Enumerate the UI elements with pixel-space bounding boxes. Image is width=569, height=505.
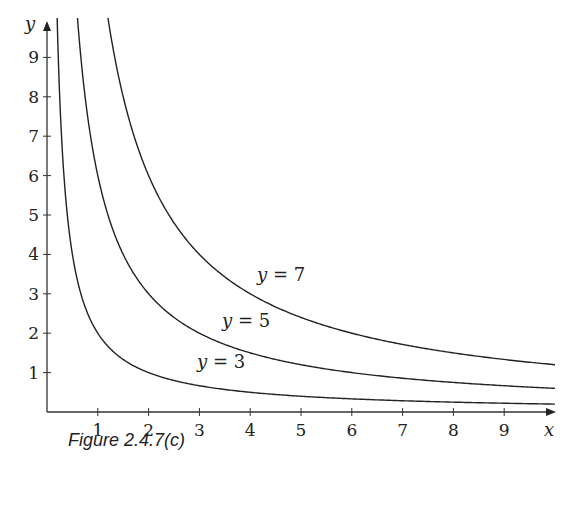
y-tick-label: 2 (28, 323, 39, 343)
x-tick-label: 6 (346, 420, 357, 440)
y-tick-label: 8 (28, 87, 39, 107)
y-tick-label: 5 (28, 205, 39, 225)
curve-label: y = 5 (221, 310, 270, 331)
axes: 123456789123456789xy (24, 13, 556, 440)
x-tick-label: 9 (499, 420, 510, 440)
curve-y7 (108, 18, 555, 365)
y-tick-label: 4 (28, 244, 39, 264)
x-tick-label: 7 (397, 420, 408, 440)
curve-y5 (77, 18, 555, 388)
x-tick-label: 5 (296, 420, 307, 440)
curves (57, 18, 555, 404)
y-axis-label: y (24, 13, 36, 34)
figure-caption: Figure 2.4.7(c) (68, 430, 185, 451)
labels: y = 3y = 5y = 7 (196, 264, 305, 372)
y-tick-label: 3 (28, 284, 39, 304)
curve-label: y = 3 (196, 351, 245, 372)
y-tick-label: 9 (28, 47, 39, 67)
y-tick-label: 6 (28, 166, 39, 186)
x-axis-arrow-icon (546, 408, 556, 416)
y-axis-arrow-icon (43, 21, 51, 31)
x-tick-label: 8 (448, 420, 459, 440)
y-tick-label: 7 (28, 126, 39, 146)
curve-y3 (57, 18, 555, 404)
x-tick-label: 3 (194, 420, 205, 440)
x-tick-label: 4 (245, 420, 256, 440)
curve-label: y = 7 (256, 264, 305, 285)
y-tick-label: 1 (28, 363, 39, 383)
x-axis-label: x (544, 419, 554, 440)
